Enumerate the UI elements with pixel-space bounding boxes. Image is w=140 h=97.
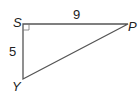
side-label-sy: 5: [9, 44, 16, 59]
vertex-label-y: Y: [12, 79, 22, 94]
triangle-diagram: S P Y 9 5: [0, 0, 140, 97]
vertex-label-s: S: [13, 15, 22, 30]
side-label-sp: 9: [73, 7, 80, 22]
vertex-label-p: P: [128, 19, 137, 34]
triangle-spy: [23, 24, 128, 79]
right-angle-marker: [23, 24, 29, 30]
